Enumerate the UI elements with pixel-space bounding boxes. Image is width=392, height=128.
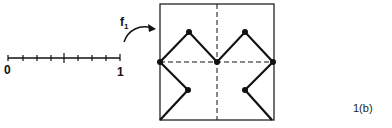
vertex-dot — [242, 87, 248, 93]
vertex-dot — [270, 59, 276, 65]
map-label: f1 — [120, 15, 129, 31]
map-label-subscript: 1 — [124, 22, 129, 31]
vertex-dot — [185, 87, 191, 93]
figure-caption: 1(b) — [353, 102, 373, 114]
unit-interval-number-line — [8, 53, 120, 63]
fractal-curve-figure: 0 1 f1 1(b) — [0, 0, 392, 128]
mapping-arrow — [124, 24, 156, 42]
vertex-dot — [214, 59, 220, 65]
vertex-dot — [157, 59, 163, 65]
vertex-dot — [186, 29, 192, 35]
number-line-end-label: 1 — [117, 65, 124, 79]
number-line-start-label: 0 — [4, 63, 11, 77]
generator-curve — [157, 29, 276, 120]
vertex-dot — [242, 29, 248, 35]
lower-left-path — [160, 62, 188, 120]
lower-right-path — [245, 62, 273, 120]
arrowhead-icon — [148, 24, 156, 32]
